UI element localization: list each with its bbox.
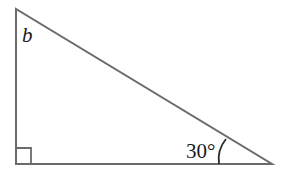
triangle [16,9,272,164]
right-angle-marker [16,148,31,164]
label-b: b [22,23,33,47]
triangle-diagram: b 30° [0,0,283,181]
label-30-degrees: 30° [186,139,215,163]
angle-arc [219,139,226,164]
